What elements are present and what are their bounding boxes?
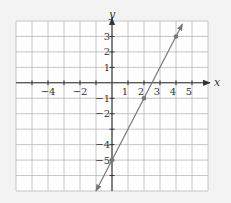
y-tick-label: −1 [95, 93, 110, 104]
y-tick-label: 1 [104, 62, 110, 73]
x-tick-label: −2 [73, 86, 88, 97]
y-tick-label: −2 [95, 108, 110, 119]
x-tick-label: −4 [41, 86, 56, 97]
x-tick-label: 2 [138, 86, 144, 97]
x-tick-label: 1 [122, 86, 128, 97]
y-axis-label: y [108, 8, 116, 21]
data-point [174, 34, 179, 39]
y-tick-label: −4 [95, 139, 110, 150]
data-point [110, 158, 115, 163]
x-tick-label: 5 [186, 86, 192, 97]
x-axis-label: x [214, 76, 221, 89]
x-tick-label: 3 [154, 86, 160, 97]
x-tick-label: 4 [170, 86, 176, 97]
y-tick-label: 3 [104, 31, 110, 42]
y-tick-label: 2 [104, 46, 110, 57]
y-tick-label: −5 [95, 155, 110, 166]
coordinate-plane: −4−212345321−1−2−4−5 x y [0, 0, 231, 203]
data-point [142, 96, 147, 101]
